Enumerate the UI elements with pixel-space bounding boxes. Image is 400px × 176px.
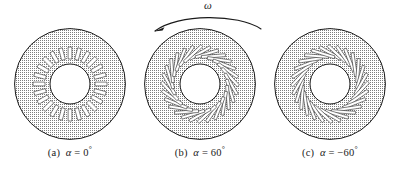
disk-diagram-b [142,26,258,142]
caption-b-equals: = [202,147,208,158]
caption-a-equals: = [74,147,80,158]
vane-slot [33,82,45,86]
panel-b: (b) α = 60° [135,0,265,176]
figure-rotor-disks: ω [0,0,400,176]
caption-a: (a) α = 0° [5,146,135,160]
caption-c: (c) α = −60° [265,146,395,160]
caption-b: (b) α = 60° [135,146,265,160]
vane-slot [68,109,72,121]
panel-a: (a) α = 0° [5,0,135,176]
caption-a-index: (a) [48,147,60,158]
hub-c [310,64,350,104]
caption-b-value: 60 [211,147,222,158]
disk-diagram-a [12,26,128,142]
hub-b [180,64,220,104]
caption-c-index: (c) [302,147,314,158]
vane-slot [95,82,107,86]
vane-slot [68,47,72,59]
caption-c-degree: ° [355,145,358,154]
caption-a-degree: ° [89,145,92,154]
caption-c-variable: α [320,147,326,158]
caption-c-equals: = [329,147,335,158]
caption-b-index: (b) [175,147,188,158]
disk-diagram-c [272,26,388,142]
panel-c: (c) α = −60° [265,0,395,176]
caption-b-degree: ° [222,145,225,154]
caption-a-variable: α [66,147,72,158]
hub-a [50,64,90,104]
caption-c-value: −60 [337,147,354,158]
caption-b-variable: α [193,147,199,158]
